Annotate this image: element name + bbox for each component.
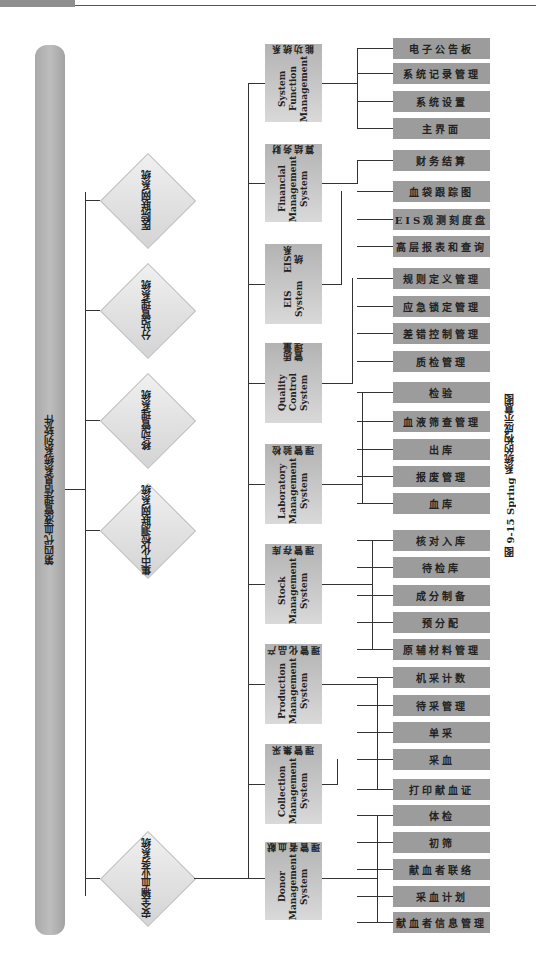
connector bbox=[248, 83, 249, 879]
leaf-node: 初筛 bbox=[393, 832, 490, 853]
leaf-node: 血袋跟踪图 bbox=[393, 181, 490, 202]
figure-caption: 图 9-15 Spring 系统的构成示意图 bbox=[500, 345, 520, 605]
module-label: EIS SystemEIS系统 bbox=[265, 244, 322, 324]
connector bbox=[357, 540, 393, 541]
connector bbox=[357, 622, 393, 623]
subsystem-label: 分站管理系统 bbox=[100, 263, 194, 357]
connector bbox=[357, 128, 393, 129]
leaf-node: 原辅材料管理 bbox=[393, 639, 490, 660]
module-quality-control: Quality Control System质量管理 bbox=[265, 343, 322, 423]
connector bbox=[248, 784, 265, 785]
leaf-label: 机采计数 bbox=[393, 667, 490, 688]
leaf-node: 体检 bbox=[393, 805, 490, 826]
connector bbox=[248, 878, 265, 879]
leaf-label: 献血者信息管理 bbox=[393, 912, 490, 933]
subsystem-label: 集中化检测联网系统 bbox=[100, 483, 194, 577]
connector bbox=[65, 489, 85, 490]
leaf-label: 预分配 bbox=[393, 612, 490, 633]
leaf-label: 核对入库 bbox=[393, 530, 490, 551]
module-label: Stock Management System库存管理 bbox=[265, 544, 322, 624]
leaf-node: 主界面 bbox=[393, 118, 490, 139]
connector bbox=[357, 278, 393, 279]
leaf-node: 单采 bbox=[393, 722, 490, 743]
leaf-node: 待检库 bbox=[393, 557, 490, 578]
connector bbox=[248, 584, 265, 585]
subsystem-label: 移动管理系统 bbox=[100, 373, 194, 467]
connector bbox=[322, 878, 377, 879]
subsystem-centralized-testing: 集中化检测联网系统 bbox=[100, 483, 194, 577]
connector bbox=[85, 310, 100, 311]
connector bbox=[357, 649, 393, 650]
connector bbox=[357, 392, 393, 393]
leaf-label: EIS观测刻度盘 bbox=[393, 209, 490, 230]
leaf-label: 应急锁定管理 bbox=[393, 296, 490, 317]
connector bbox=[85, 420, 100, 421]
connector bbox=[357, 842, 393, 843]
module-label: System Function Management系统功能 bbox=[265, 44, 322, 122]
connector bbox=[322, 284, 342, 285]
leaf-node: 献血者联络 bbox=[393, 859, 490, 880]
root-label: 第四代血液管理信息系统系列软件 bbox=[35, 45, 65, 935]
leaf-label: 待采管理 bbox=[393, 695, 490, 716]
module-label: Quality Control System质量管理 bbox=[265, 343, 322, 423]
connector bbox=[322, 484, 362, 485]
leaf-label: 采血计划 bbox=[393, 886, 490, 907]
connector bbox=[194, 878, 248, 879]
module-collection: Collection Management System采集管理 bbox=[265, 744, 322, 824]
connector bbox=[85, 530, 100, 531]
connector bbox=[357, 48, 358, 128]
module-label: Donor Management System献血者管理 bbox=[265, 842, 322, 920]
connector bbox=[362, 392, 363, 503]
connector bbox=[341, 191, 342, 285]
leaf-label: 系统设置 bbox=[393, 91, 490, 112]
leaf-label: 高层报表和查询 bbox=[393, 236, 490, 257]
root-node: 第四代血液管理信息系统系列软件 bbox=[35, 45, 65, 935]
connector bbox=[357, 219, 393, 220]
leaf-node: 成分制备 bbox=[393, 585, 490, 606]
leaf-node: 规则定义管理 bbox=[393, 268, 490, 289]
leaf-label: 报废管理 bbox=[393, 466, 490, 487]
connector bbox=[357, 503, 393, 504]
connector bbox=[322, 684, 377, 685]
connector bbox=[357, 815, 393, 816]
connector bbox=[357, 732, 393, 733]
leaf-node: 采血计划 bbox=[393, 886, 490, 907]
leaf-label: 原辅材料管理 bbox=[393, 639, 490, 660]
connector bbox=[357, 869, 393, 870]
leaf-label: 血袋跟踪图 bbox=[393, 181, 490, 202]
subsystem-mobile-management: 移动管理系统 bbox=[100, 373, 194, 467]
leaf-label: 差错控制管理 bbox=[393, 323, 490, 344]
leaf-label: 成分制备 bbox=[393, 585, 490, 606]
leaf-node: 机采计数 bbox=[393, 667, 490, 688]
leaf-label: 财务结算 bbox=[393, 150, 490, 171]
connector bbox=[357, 421, 393, 422]
connector bbox=[357, 567, 393, 568]
connector bbox=[248, 383, 265, 384]
leaf-label: 初筛 bbox=[393, 832, 490, 853]
module-financial: Financial Management System财务结算 bbox=[265, 144, 322, 222]
leaf-label: 单采 bbox=[393, 722, 490, 743]
leaf-node: 采血 bbox=[393, 749, 490, 770]
leaf-label: 血库 bbox=[393, 493, 490, 514]
subsystem-hospital-network: 医院联网系统 bbox=[100, 153, 194, 247]
subsystem-label: 安全输血业务系统 bbox=[100, 831, 194, 925]
leaf-node: 系统设置 bbox=[393, 91, 490, 112]
connector bbox=[322, 383, 352, 384]
leaf-label: 待检库 bbox=[393, 557, 490, 578]
leaf-label: 系统记录管理 bbox=[393, 63, 490, 84]
leaf-label: 出库 bbox=[393, 439, 490, 460]
connector bbox=[357, 595, 393, 596]
leaf-node: 报废管理 bbox=[393, 466, 490, 487]
module-label: Collection Management System采集管理 bbox=[265, 744, 322, 824]
connector bbox=[357, 160, 358, 184]
leaf-node: 血液筛查管理 bbox=[393, 411, 490, 432]
module-system-function: System Function Management系统功能 bbox=[265, 44, 322, 122]
module-label: Laboratory Management System检验管理 bbox=[265, 444, 322, 524]
leaf-label: 规则定义管理 bbox=[393, 268, 490, 289]
leaf-node: 应急锁定管理 bbox=[393, 296, 490, 317]
module-stock: Stock Management System库存管理 bbox=[265, 544, 322, 624]
connector bbox=[357, 361, 393, 362]
leaf-node: 预分配 bbox=[393, 612, 490, 633]
connector bbox=[357, 160, 393, 161]
leaf-node: 系统记录管理 bbox=[393, 63, 490, 84]
